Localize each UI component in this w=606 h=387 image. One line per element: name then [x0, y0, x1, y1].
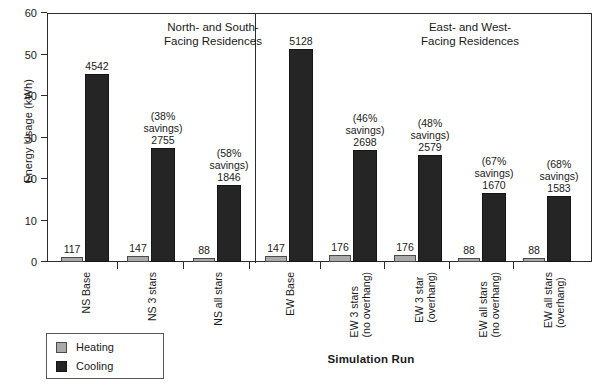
savings-line-1: (46% [345, 112, 384, 124]
category-label-line-1: NS all stars [212, 272, 224, 326]
energy-usage-bar-chart: Energy Usage (kWh) 0102030405060 1174542… [0, 0, 606, 387]
x-axis-title-text: Simulation Run [327, 353, 414, 365]
savings-line-1: (67% [474, 155, 513, 167]
heating-value-label: 88 [463, 244, 475, 256]
group-divider [255, 13, 256, 263]
category-label-line-1: NS Base [80, 272, 92, 313]
bar-heating [329, 255, 351, 262]
cooling-value-label: 1670 [482, 179, 505, 191]
x-tick-mark [183, 262, 184, 269]
cropped-top-text [0, 0, 606, 7]
category-label: NS all stars [212, 272, 224, 326]
y-tick-label: 0 [31, 255, 37, 269]
category-label-line-1: EW all stars [542, 272, 554, 328]
bar-heating [523, 258, 545, 262]
bar-cooling [151, 148, 175, 262]
bar-cooling [482, 193, 506, 262]
y-tick-50: 50 [0, 48, 47, 62]
x-tick-mark [249, 262, 250, 269]
bar-cooling [418, 155, 442, 262]
category-label-line-1: EW Base [284, 272, 296, 316]
heating-value-label: 117 [64, 243, 81, 255]
bar-cooling [547, 196, 571, 262]
category-label: EW all stars(overhang) [542, 272, 566, 328]
group-annotation-line-2: Facing Residences [164, 34, 262, 48]
category-label: EW 3 stars(no overhang) [348, 272, 372, 337]
cooling-value-label: 2755 [151, 134, 174, 146]
y-tick-label: 40 [25, 89, 37, 103]
group-annotation-line-1: East- and West- [421, 20, 519, 34]
bar-heating [61, 257, 83, 262]
category-label: EW 3 star(overhang) [413, 272, 437, 323]
x-tick-mark [117, 262, 118, 269]
category-label-line-2: (no overhang) [489, 272, 501, 337]
bar-heating [458, 258, 480, 262]
savings-line-2: savings) [410, 129, 449, 141]
heating-value-label: 176 [396, 241, 414, 253]
category-label-line-2: (no overhang) [360, 272, 372, 337]
y-tick-label: 50 [25, 48, 37, 62]
category-label-line-2: (overhang) [425, 272, 437, 323]
bar-heating [193, 258, 215, 262]
cooling-value-label: 1846 [217, 171, 240, 183]
savings-line-2: savings) [474, 167, 513, 179]
cooling-value-label: 2579 [418, 141, 441, 153]
savings-line-2: savings) [539, 170, 578, 182]
cooling-value-label: 4542 [85, 60, 108, 72]
category-label: EW Base [284, 272, 296, 316]
bar-cooling [217, 185, 241, 262]
category-label: NS 3 stars [146, 272, 158, 321]
y-tick-20: 20 [0, 172, 47, 186]
heating-value-label: 147 [129, 242, 147, 254]
y-tick-10: 10 [0, 214, 47, 228]
bar-heating [127, 256, 149, 262]
x-tick-mark [449, 262, 450, 269]
cooling-value-label: 5128 [289, 35, 312, 47]
x-tick-mark [320, 262, 321, 269]
savings-annotation: (46%savings) [345, 112, 384, 136]
bar-cooling [353, 150, 377, 262]
savings-line-1: (38% [143, 110, 182, 122]
savings-line-1: (48% [410, 117, 449, 129]
category-label-line-1: EW 3 star [413, 277, 425, 323]
group-annotation-line-1: North- and South- [164, 20, 262, 34]
savings-annotation: (68%savings) [539, 158, 578, 182]
savings-annotation: (38%savings) [143, 110, 182, 134]
x-axis-title: Simulation Run [0, 353, 606, 365]
savings-annotation: (67%savings) [474, 155, 513, 179]
y-tick-label: 10 [25, 214, 37, 228]
heating-value-label: 88 [528, 244, 540, 256]
group-annotation: North- and South-Facing Residences [164, 20, 262, 48]
savings-line-2: savings) [209, 159, 248, 171]
bar-heating [394, 255, 416, 262]
cooling-value-label: 2698 [353, 136, 376, 148]
savings-line-2: savings) [143, 122, 182, 134]
category-label: EW all stars(no overhang) [477, 272, 501, 337]
y-tick-60: 60 [0, 6, 47, 20]
x-tick-mark [384, 262, 385, 269]
y-tick-30: 30 [0, 131, 47, 145]
heating-value-label: 147 [267, 242, 285, 254]
category-label-line-1: NS 3 stars [146, 272, 158, 321]
bar-cooling [289, 49, 313, 262]
savings-line-2: savings) [345, 124, 384, 136]
y-tick-label: 60 [25, 6, 37, 20]
savings-line-1: (68% [539, 158, 578, 170]
heating-value-label: 88 [198, 244, 210, 256]
group-annotation-line-2: Facing Residences [421, 34, 519, 48]
cooling-value-label: 1583 [547, 182, 570, 194]
x-tick-mark [513, 262, 514, 269]
category-label: NS Base [80, 272, 92, 313]
group-annotation: East- and West-Facing Residences [421, 20, 519, 48]
category-label-line-1: EW 3 stars [348, 286, 360, 337]
y-tick-label: 20 [25, 172, 37, 186]
category-label-line-1: EW all stars [477, 281, 489, 337]
savings-line-1: (58% [209, 147, 248, 159]
savings-annotation: (48%savings) [410, 117, 449, 141]
category-label-line-2: (overhang) [554, 272, 566, 328]
y-tick-0: 0 [0, 255, 47, 269]
legend-swatch-heating [56, 342, 67, 353]
y-tick-label: 30 [25, 131, 37, 145]
y-tick-40: 40 [0, 89, 47, 103]
bar-cooling [85, 74, 109, 262]
